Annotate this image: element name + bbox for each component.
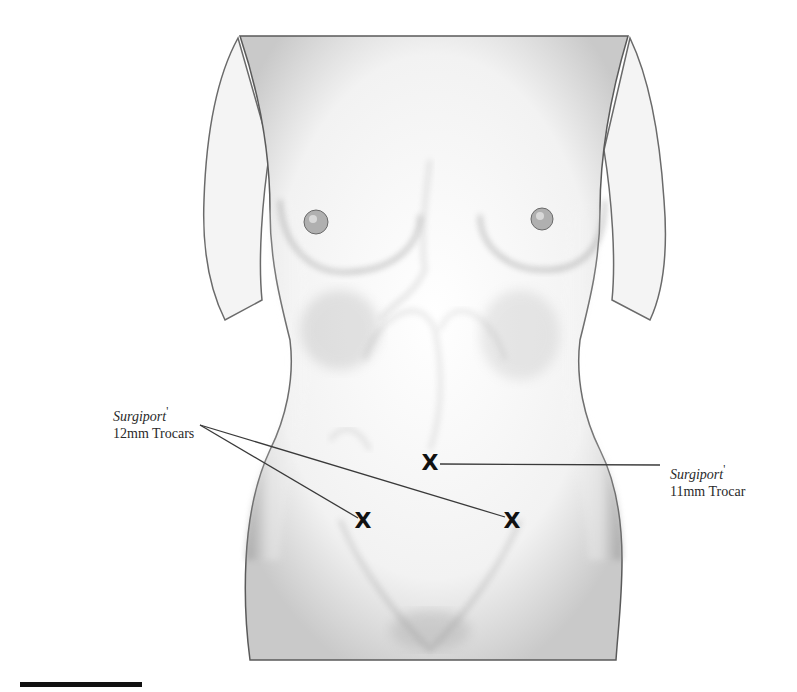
label-mark: '	[723, 463, 725, 476]
label-size: 12mm Trocars	[113, 425, 194, 442]
nipple-left	[304, 210, 328, 234]
trocar-marker-right-lower-icon: X	[355, 510, 372, 532]
torso-illustration	[0, 0, 797, 692]
trocar-marker-left-lower-icon: X	[504, 510, 521, 532]
label-12mm-trocars: Surgiport' 12mm Trocars	[113, 403, 194, 442]
diagram-canvas: X X X Surgiport' 12mm Trocars Surgiport'…	[0, 0, 797, 692]
label-brand: Surgiport	[113, 409, 166, 424]
label-11mm-trocar: Surgiport' 11mm Trocar	[670, 461, 745, 500]
scale-bar	[20, 682, 142, 687]
label-size: 11mm Trocar	[670, 483, 745, 500]
trocar-marker-umbilical-icon: X	[422, 452, 439, 474]
label-mark: '	[166, 405, 168, 418]
label-brand: Surgiport	[670, 467, 723, 482]
